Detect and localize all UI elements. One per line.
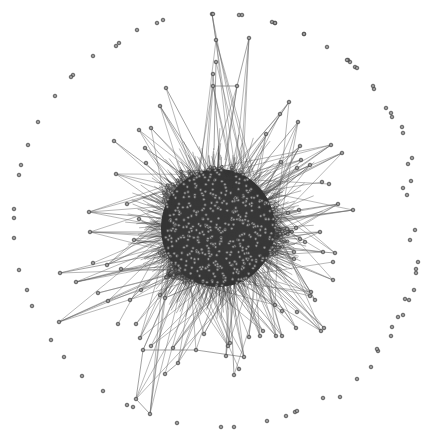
core-node (238, 178, 241, 181)
core-node (207, 230, 210, 233)
spoke-node (202, 332, 206, 336)
core-node (272, 218, 275, 221)
isolated-node (390, 115, 394, 119)
core-node (276, 217, 279, 220)
core-node (187, 222, 190, 225)
spoke-node (294, 326, 298, 330)
core-node (163, 196, 166, 199)
core-node (195, 211, 198, 214)
core-node (187, 191, 190, 194)
spoke-node (280, 334, 284, 338)
core-node (218, 250, 221, 253)
spoke-node (158, 104, 162, 108)
core-node (174, 261, 177, 264)
isolated-node (12, 236, 16, 240)
core-node (172, 213, 175, 216)
core-node (200, 248, 203, 251)
core-node (239, 171, 242, 174)
core-node (256, 194, 259, 197)
core-node (247, 220, 250, 223)
core-node (208, 269, 211, 272)
core-node (212, 193, 215, 196)
isolated-node (355, 377, 359, 381)
spoke-node (125, 202, 129, 206)
core-node (190, 257, 193, 260)
core-node (180, 170, 183, 173)
core-node (194, 182, 197, 185)
core-node (242, 173, 245, 176)
core-node (188, 235, 191, 238)
core-node (183, 236, 186, 239)
core-node (216, 263, 219, 266)
spoke-node (163, 372, 167, 376)
spoke-node (137, 128, 141, 132)
core-node (204, 183, 207, 186)
spoke-node (331, 260, 335, 264)
isolated-node (371, 84, 375, 88)
core-node (176, 206, 179, 209)
core-node (230, 264, 233, 267)
core-node (255, 244, 258, 247)
core-node (183, 279, 186, 282)
spoke-node (171, 346, 175, 350)
core-node (177, 182, 180, 185)
spoke-node (322, 326, 326, 330)
spoke-node (308, 294, 312, 298)
core-node (249, 255, 252, 258)
isolated-node (12, 216, 16, 220)
core-node (197, 258, 200, 261)
spoke-node (298, 237, 302, 241)
core-node (245, 257, 248, 260)
core-node (188, 170, 191, 173)
core-node (167, 238, 170, 241)
core-node (162, 200, 165, 203)
isolated-node (401, 186, 405, 190)
core-node (256, 225, 259, 228)
core-node (242, 195, 245, 198)
core-node (240, 278, 243, 281)
core-node (158, 252, 161, 255)
core-node (280, 236, 283, 239)
spoke-node (298, 144, 302, 148)
core-node (195, 173, 198, 176)
spoke-node (137, 217, 141, 221)
spoke-node (141, 348, 145, 352)
spoke-node (88, 230, 92, 234)
core-node (220, 169, 223, 172)
core-node (189, 272, 192, 275)
core-node (210, 202, 213, 205)
core-node (190, 172, 193, 175)
core-node (165, 186, 168, 189)
core-node (234, 170, 237, 173)
spoke-node (292, 250, 296, 254)
core-node (251, 209, 254, 212)
isolated-node (414, 271, 418, 275)
isolated-node (211, 12, 215, 16)
spoke-node (280, 309, 284, 313)
spoke-node (112, 139, 116, 143)
core-node (242, 239, 245, 242)
core-node (235, 197, 238, 200)
core-node (258, 254, 261, 257)
core-node (229, 192, 232, 195)
core-node (216, 207, 219, 210)
core-node (217, 217, 220, 220)
isolated-node (12, 207, 16, 211)
spoke-node (144, 161, 148, 165)
core-node (258, 200, 261, 203)
isolated-node (375, 347, 379, 351)
core-node (167, 252, 170, 255)
isolated-node (273, 21, 277, 25)
core-node (231, 200, 234, 203)
core-node (271, 224, 274, 227)
core-node (177, 224, 180, 227)
spoke-node (148, 412, 152, 416)
spoke-node (308, 163, 312, 167)
spoke-node (87, 210, 91, 214)
isolated-node (414, 267, 418, 271)
core-node (271, 246, 274, 249)
core-node (247, 245, 250, 248)
core-node (180, 277, 183, 280)
core-node (254, 237, 257, 240)
core-node (171, 191, 174, 194)
